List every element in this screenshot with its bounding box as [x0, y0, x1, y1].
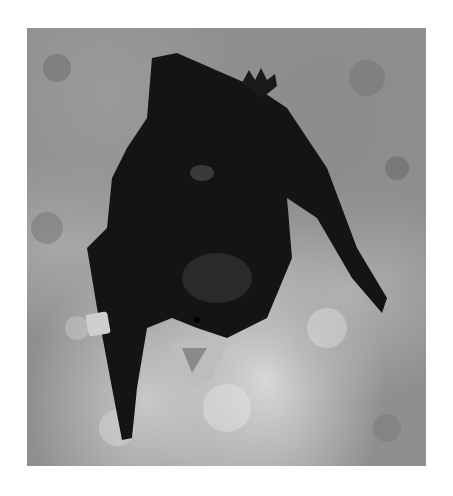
bat-mouth	[172, 338, 227, 388]
arm-band	[85, 311, 110, 336]
bat-eye	[194, 317, 200, 323]
bat-head	[182, 253, 252, 303]
bat-photograph	[27, 28, 426, 466]
bat-body	[87, 53, 387, 440]
bat-figure	[27, 28, 426, 466]
